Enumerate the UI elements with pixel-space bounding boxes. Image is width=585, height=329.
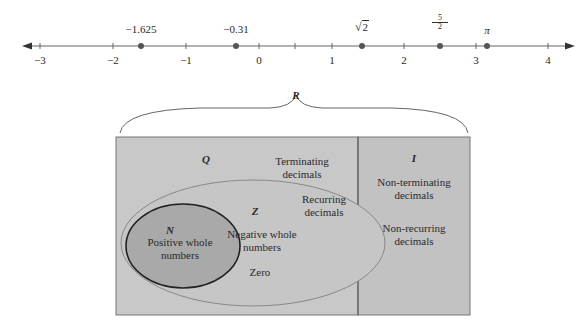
point-label-fraction: 5 2	[432, 14, 448, 31]
i-item-nonterminating: Non-terminatingdecimals	[364, 176, 464, 202]
set-z-label: Z	[245, 205, 265, 218]
tick-label: 2	[394, 54, 414, 67]
set-i-label: I	[404, 152, 424, 165]
q-item-terminating: Terminatingdecimals	[262, 155, 342, 181]
tick-label: −1	[176, 54, 196, 67]
tick-label: −2	[103, 54, 123, 67]
q-item-recurring: Recurringdecimals	[292, 193, 356, 219]
i-item-nonrecurring: Non-recurringdecimals	[364, 222, 464, 248]
set-r-label: R	[286, 89, 306, 102]
set-q-label: Q	[196, 153, 216, 166]
point-label: π	[479, 24, 495, 37]
tick-label: 0	[249, 54, 269, 67]
tick-label: 4	[538, 54, 558, 67]
n-item-positive: Positive wholenumbers	[130, 236, 230, 262]
tick-label: 1	[322, 54, 342, 67]
tick-label: −3	[30, 54, 50, 67]
point-label-sqrt2: √2	[348, 21, 376, 34]
point-label: −1.625	[116, 23, 166, 36]
left-arrow-icon	[22, 43, 32, 50]
number-line	[22, 43, 575, 50]
point-label: −0.31	[216, 23, 256, 36]
right-arrow-icon	[565, 43, 575, 50]
z-item-zero: Zero	[240, 266, 280, 279]
tick-label: 3	[466, 54, 486, 67]
